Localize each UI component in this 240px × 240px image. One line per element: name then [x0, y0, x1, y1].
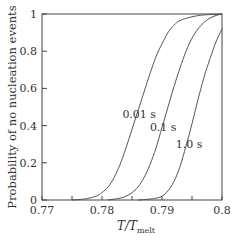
y-tick-label: 0 — [30, 194, 37, 207]
y-tick-label: 0.2 — [20, 157, 38, 170]
chart-canvas: 0.770.780.790.8 00.20.40.60.81 0.01 s0.1… — [0, 0, 240, 240]
x-tick-label: 0.78 — [90, 204, 115, 217]
y-tick-label: 0.8 — [20, 45, 38, 58]
curve-label: 0.1 s — [150, 121, 177, 134]
y-axis-label: Probability of no nucleation events — [5, 5, 19, 208]
nucleation-probability-chart: 0.770.780.790.8 00.20.40.60.81 0.01 s0.1… — [0, 0, 240, 240]
y-tick-label: 0.4 — [20, 120, 38, 133]
x-axis-label: T/Tmelt — [117, 219, 156, 235]
plot-lines — [72, 14, 222, 200]
x-axis-ticks: 0.770.780.790.8 — [30, 196, 231, 217]
y-tick-label: 0.6 — [20, 82, 38, 95]
curve-label: 1.0 s — [176, 138, 203, 151]
y-axis-ticks: 00.20.40.60.81 — [20, 8, 48, 207]
x-tick-label: 0.79 — [150, 204, 175, 217]
x-tick-label: 0.8 — [213, 204, 231, 217]
y-tick-label: 1 — [30, 8, 37, 21]
curve-label: 0.01 s — [122, 108, 156, 121]
curve-0-1-s — [108, 14, 222, 200]
plot-frame — [42, 14, 222, 200]
